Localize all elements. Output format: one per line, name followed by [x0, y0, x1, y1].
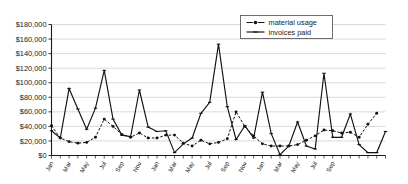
legend: material usage invoices paid: [241, 16, 333, 39]
data-point-marker: [94, 136, 97, 139]
data-point-marker: [331, 129, 334, 132]
x-tick-label: Sep: [219, 160, 231, 174]
y-tick-label: $60,000: [20, 107, 47, 116]
x-tick-label: Jul: [97, 160, 107, 170]
data-point-marker: [182, 142, 185, 145]
data-point-marker: [375, 112, 378, 115]
data-point-marker: [235, 110, 238, 113]
data-point-marker: [358, 136, 361, 139]
x-tick-label: Mar: [272, 160, 283, 173]
line-chart-figure: $0$20,000$40,000$60,000$80,000$100,000$1…: [0, 0, 408, 184]
data-point-marker: [226, 137, 229, 140]
x-tick-label: May: [289, 159, 301, 173]
y-tick-label: $160,000: [16, 35, 47, 44]
x-tick-label: Sep: [324, 160, 336, 174]
y-tick-label: $120,000: [16, 64, 47, 73]
data-point-marker: [243, 125, 246, 128]
legend-dot-marker-icon: [254, 21, 258, 25]
data-point-marker: [199, 139, 202, 142]
data-point-marker: [217, 141, 220, 144]
y-tick-label: $180,000: [16, 20, 47, 29]
x-tick-label: May: [78, 159, 90, 173]
x-tick-label: Jan: [149, 160, 160, 173]
data-point-marker: [279, 145, 282, 148]
series-markers-invoices-paid: [50, 44, 387, 155]
data-point-marker: [208, 142, 211, 145]
data-point-marker: [252, 134, 255, 137]
data-point-marker: [68, 140, 71, 143]
x-tick-label: Jul: [308, 160, 318, 170]
data-point-marker: [164, 134, 167, 137]
legend-label-invoices-paid: invoices paid: [269, 28, 312, 37]
data-point-marker: [156, 137, 159, 140]
data-point-marker: [50, 124, 53, 127]
data-point-marker: [323, 129, 326, 132]
data-point-marker: [191, 145, 194, 148]
data-point-marker: [270, 145, 273, 148]
data-point-marker: [173, 134, 176, 137]
x-axis-tick-labels: JanMarMayJulSepNovJanMarMayJulSepNovJanM…: [44, 159, 336, 173]
x-tick-label: Mar: [166, 160, 177, 173]
x-tick-label: Nov: [237, 159, 249, 173]
data-point-marker: [305, 139, 308, 142]
y-axis-tick-labels: $0$20,000$40,000$60,000$80,000$100,000$1…: [16, 20, 47, 160]
x-tick-label: Jan: [44, 160, 55, 173]
chart-canvas: $0$20,000$40,000$60,000$80,000$100,000$1…: [0, 0, 408, 184]
data-point-marker: [296, 143, 299, 146]
y-tick-label: $0: [38, 151, 46, 160]
x-tick-label: Mar: [61, 160, 72, 173]
series-line-invoices-paid: [52, 44, 386, 155]
x-tick-label: Jan: [255, 160, 266, 173]
data-point-marker: [138, 131, 141, 134]
data-point-marker: [59, 137, 62, 140]
data-point-marker: [287, 145, 290, 148]
y-tick-label: $40,000: [20, 122, 47, 131]
x-tick-label: Sep: [114, 160, 126, 174]
data-point-marker: [349, 131, 352, 134]
x-tick-label: Jul: [203, 160, 213, 170]
y-tick-label: $80,000: [20, 93, 47, 102]
data-point-marker: [85, 141, 88, 144]
data-point-marker: [76, 142, 79, 145]
data-point-marker: [366, 123, 369, 126]
data-point-marker: [314, 134, 317, 137]
y-tick-label: $140,000: [16, 49, 47, 58]
data-point-marker: [261, 142, 264, 145]
x-tick-label: Nov: [131, 159, 143, 173]
data-point-marker: [112, 125, 115, 128]
data-point-marker: [129, 136, 132, 139]
y-tick-label: $100,000: [16, 78, 47, 87]
data-point-marker: [120, 133, 123, 136]
x-tick-label: May: [184, 159, 196, 173]
data-point-marker: [340, 131, 343, 134]
data-point-marker: [147, 137, 150, 140]
y-tick-label: $20,000: [20, 137, 47, 146]
legend-label-material-usage: material usage: [269, 18, 317, 27]
data-point-marker: [103, 118, 106, 121]
